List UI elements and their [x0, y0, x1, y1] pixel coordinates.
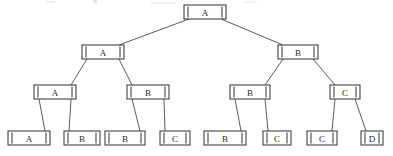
edge-c2-to-leaf-c	[332, 99, 335, 131]
tree-node-b-l2[interactable]: B	[278, 45, 318, 59]
edge-a1-to-a2	[71, 59, 87, 85]
tree-node-b-l3[interactable]: B	[127, 85, 169, 99]
node-label: C	[274, 134, 280, 144]
node-label: B	[145, 88, 151, 98]
node-label: A	[26, 134, 33, 144]
tree-node-c-l4[interactable]: C	[263, 131, 291, 145]
edge-root-to-left	[119, 19, 189, 45]
tree-node-d-l4[interactable]: D	[361, 131, 383, 145]
edge-a2-to-leaf-b	[69, 99, 71, 131]
edge-b3-to-leaf-b	[235, 99, 241, 131]
node-label: A	[52, 88, 59, 98]
edge-root-to-right	[221, 19, 283, 45]
edge-b3-to-leaf-c	[265, 99, 268, 131]
tree-node-a-l3[interactable]: A	[34, 85, 76, 99]
tree-node-b-l4[interactable]: B	[105, 131, 145, 145]
edge-b2-to-leaf-b	[132, 99, 140, 131]
node-label: B	[79, 134, 85, 144]
tree-node-b-l3[interactable]: B	[230, 85, 270, 99]
node-label: C	[172, 134, 178, 144]
edge-b2-to-leaf-c	[164, 99, 165, 131]
edge-b1-to-b2	[265, 59, 283, 85]
tree-node-a-l1[interactable]: A	[184, 5, 226, 19]
tree-node-b-l4[interactable]: B	[64, 131, 100, 145]
node-label: C	[319, 134, 325, 144]
node-label: B	[247, 88, 253, 98]
edge-c2-to-leaf-d	[355, 99, 366, 131]
edge-a1-to-b2	[119, 59, 132, 85]
tree-node-c-l4[interactable]: C	[160, 131, 190, 145]
edge-a2-to-leaf-a	[39, 99, 45, 131]
edges-layer	[39, 19, 366, 131]
tree-node-b-l4[interactable]: B	[204, 131, 246, 145]
node-label: A	[202, 8, 209, 18]
node-label: B	[295, 48, 301, 58]
node-label: B	[122, 134, 128, 144]
node-label: D	[369, 134, 376, 144]
tree-node-a-l4[interactable]: A	[8, 131, 50, 145]
edge-b1-to-c2	[313, 59, 335, 85]
tree-node-c-l4[interactable]: C	[307, 131, 337, 145]
node-label: C	[342, 88, 348, 98]
tree-node-a-l2[interactable]: A	[82, 45, 124, 59]
tree-diagram-canvas: AABABBCABBCBCCD	[0, 0, 393, 156]
tree-node-c-l3[interactable]: C	[330, 85, 360, 99]
tree-diagram-svg: AABABBCABBCBCCD	[0, 0, 393, 156]
node-label: A	[100, 48, 107, 58]
node-label: B	[222, 134, 228, 144]
